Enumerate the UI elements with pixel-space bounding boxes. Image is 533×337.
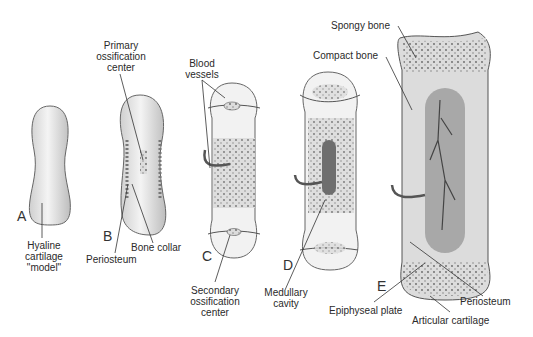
stage-letter-a: A <box>17 208 26 224</box>
label-line: ossification <box>182 296 248 307</box>
stage-letter-b: B <box>103 228 112 244</box>
label-compact-bone: Compact bone <box>313 50 378 61</box>
stage-a-cartilage-model <box>29 106 70 225</box>
label-line: vessels <box>180 69 224 80</box>
label-line: Medullary <box>258 287 314 298</box>
stage-e-mature-bone <box>392 32 490 300</box>
label-medullary-cavity: Medullary cavity <box>258 287 314 309</box>
stage-d-medullary-cavity <box>295 72 360 270</box>
label-line: center <box>182 307 248 318</box>
stage-letter-c: C <box>202 248 212 264</box>
label-blood-vessels: Blood vessels <box>180 58 224 80</box>
label-epiphyseal-plate: Epiphyseal plate <box>329 305 402 316</box>
label-spongy-bone: Spongy bone <box>331 20 390 31</box>
label-line: Primary <box>88 40 154 51</box>
label-line: cartilage <box>22 251 66 262</box>
label-periosteum-e: Periosteum <box>460 296 511 307</box>
label-line: Hyaline <box>22 240 66 251</box>
stage-letter-d: D <box>283 257 293 273</box>
label-line: ossification <box>88 51 154 62</box>
label-line: center <box>88 62 154 73</box>
stage-c-secondary-ossification <box>204 83 260 258</box>
label-secondary-ossification-center: Secondary ossification center <box>182 285 248 318</box>
label-line: cavity <box>258 298 314 309</box>
label-periosteum-b: Periosteum <box>86 254 137 265</box>
label-bone-collar: Bone collar <box>131 242 181 253</box>
label-line: Secondary <box>182 285 248 296</box>
label-line: Blood <box>180 58 224 69</box>
label-line: "model" <box>22 262 66 273</box>
label-hyaline-cartilage-model: Hyaline cartilage "model" <box>22 240 66 273</box>
label-articular-cartilage: Articular cartilage <box>412 315 489 326</box>
stage-letter-e: E <box>377 278 386 294</box>
label-primary-ossification-center: Primary ossification center <box>88 40 154 73</box>
